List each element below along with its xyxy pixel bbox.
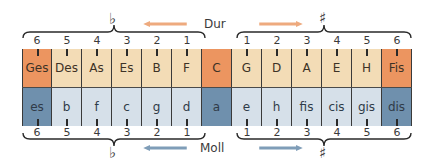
sharp-number: 4 [322,34,352,47]
major-key-cell: As [82,49,112,87]
major-key-cell: B [142,49,172,87]
minor-key-cell: es [22,88,52,126]
minor-key-cell: f [82,88,112,126]
minor-key-cell: b [52,88,82,126]
major-key-cell: Es [112,49,142,87]
major-key-cell: G [232,49,262,87]
minor-key-cell-center: a [202,88,232,126]
minor-key-cell: c [112,88,142,126]
flat-number: 5 [52,34,82,47]
minor-key-cell: d [172,88,202,126]
circle-of-fifths-table: Ges Des As Es B F C G D A E H Fis es b f… [22,49,412,127]
major-key-cell: Fis [382,49,412,87]
major-key-cell: D [262,49,292,87]
flat-number: 1 [172,34,202,47]
arrow-right-minor-icon [252,145,310,151]
flat-icon-bottom: ♭ [109,144,116,162]
sharp-number: 3 [292,34,322,47]
major-key-cell: Des [52,49,82,87]
arrow-left-major-icon [136,21,194,27]
major-key-cell: F [172,49,202,87]
sharp-icon-top: ♯ [319,9,326,27]
major-keys-row: Ges Des As Es B F C G D A E H Fis [22,49,412,87]
arrow-right-major-icon [252,21,310,27]
minor-key-cell: gis [352,88,382,126]
flat-number: 3 [112,34,142,47]
major-key-cell: Ges [22,49,52,87]
flat-number: 4 [82,34,112,47]
minor-key-cell: e [232,88,262,126]
sharp-number: 6 [382,34,412,47]
major-key-cell: H [352,49,382,87]
major-key-cell-center: C [202,49,232,87]
minor-keys-row: es b f c g d a e h fis cis gis dis [22,88,412,126]
sharp-number: 1 [232,34,262,47]
major-label: Dur [204,17,226,31]
major-key-cell: E [322,49,352,87]
sharp-number: 5 [352,34,382,47]
minor-key-cell: h [262,88,292,126]
arrow-left-minor-icon [136,145,194,151]
flat-number: 6 [22,34,52,47]
major-key-cell: A [292,49,322,87]
minor-key-cell: dis [382,88,412,126]
sharp-number: 2 [262,34,292,47]
minor-key-cell: fis [292,88,322,126]
sharp-icon-bottom: ♯ [319,144,326,162]
minor-key-cell: cis [322,88,352,126]
minor-key-cell: g [142,88,172,126]
minor-label: Moll [200,141,224,155]
flat-number: 2 [142,34,172,47]
flat-icon-top: ♭ [109,10,116,28]
